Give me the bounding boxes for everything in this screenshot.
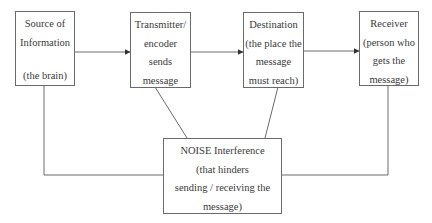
receiver-node: Receiver (person who gets the message) bbox=[359, 11, 419, 86]
transmitter-line-2: encoder bbox=[144, 35, 177, 54]
transmitter-line-3: sends bbox=[149, 53, 172, 72]
destination-line-3: message bbox=[256, 53, 292, 72]
noise-node: NOISE Interference (that hinders sending… bbox=[163, 138, 282, 214]
destination-line-2: (the place the bbox=[245, 35, 302, 54]
transmitter-line-4: message bbox=[143, 72, 179, 91]
destination-line-4: must reach) bbox=[249, 72, 298, 91]
line-transmitter-to-noise bbox=[155, 87, 187, 138]
receiver-line-3: gets the bbox=[373, 52, 405, 71]
line-destination-to-noise bbox=[265, 87, 278, 138]
transmitter-node: Transmitter/ encoder sends message bbox=[130, 12, 191, 88]
destination-node: Destination (the place the message must … bbox=[243, 12, 304, 88]
source-line-4: (the brain) bbox=[23, 67, 67, 86]
receiver-line-2: (person who bbox=[363, 34, 415, 53]
source-node: Source of Information (the brain) bbox=[15, 11, 75, 86]
destination-line-1: Destination bbox=[249, 16, 297, 35]
receiver-line-1: Receiver bbox=[370, 15, 407, 34]
line-source-to-noise bbox=[44, 85, 163, 175]
noise-line-2: (that hinders bbox=[196, 161, 249, 180]
noise-line-3: sending / receiving the bbox=[175, 179, 270, 198]
line-receiver-to-noise bbox=[281, 86, 388, 175]
receiver-line-4: message) bbox=[369, 71, 408, 90]
noise-line-1: NOISE Interference bbox=[180, 142, 264, 161]
noise-line-4: message) bbox=[203, 198, 242, 217]
source-line-2: Information bbox=[20, 34, 70, 53]
transmitter-line-1: Transmitter/ bbox=[135, 16, 187, 35]
source-line-1: Source of bbox=[25, 15, 66, 34]
